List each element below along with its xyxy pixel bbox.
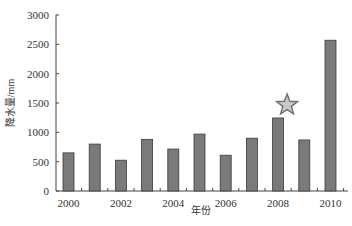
y-tick-label: 0 — [44, 185, 50, 197]
bar-2005 — [194, 134, 205, 191]
bar-2008 — [273, 118, 284, 191]
bar-2002 — [115, 160, 126, 191]
x-tick-label: 2004 — [162, 197, 185, 209]
bar-2006 — [220, 155, 231, 191]
bar-2003 — [142, 139, 153, 191]
x-tick-label: 2000 — [58, 197, 81, 209]
x-tick-label: 2002 — [110, 197, 132, 209]
y-tick-label: 500 — [33, 156, 50, 168]
x-tick-label: 2008 — [267, 197, 290, 209]
bar-2010 — [325, 40, 336, 191]
y-tick-label: 3000 — [27, 9, 50, 21]
bar-2001 — [89, 144, 100, 191]
x-tick-label: 2006 — [215, 197, 238, 209]
y-tick-label: 1000 — [27, 126, 50, 138]
y-tick-label: 1500 — [27, 97, 50, 109]
y-axis-label: 降水量/mm — [4, 79, 16, 128]
bar-2007 — [246, 138, 257, 191]
bar-2000 — [63, 153, 74, 191]
x-tick-label: 2010 — [320, 197, 343, 209]
star-icon — [277, 94, 298, 114]
bar-2009 — [299, 140, 310, 191]
y-tick-label: 2000 — [27, 68, 50, 80]
x-axis-label: 年份 — [191, 204, 211, 216]
precipitation-bar-chart: 0500100015002000250030002000200220042006… — [0, 0, 352, 226]
y-tick-label: 2500 — [27, 38, 50, 50]
chart-svg: 0500100015002000250030002000200220042006… — [0, 0, 352, 226]
bar-2004 — [168, 149, 179, 191]
